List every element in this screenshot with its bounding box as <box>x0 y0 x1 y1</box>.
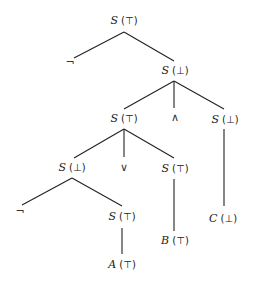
node-symbol: A <box>108 258 116 271</box>
node-symbol: S <box>110 14 118 27</box>
parse-tree-diagram: S (⊤)¬S (⊥)S (⊤)∧S (⊥)S (⊥)∨S (⊤)¬S (⊤)C… <box>0 0 253 285</box>
tree-edge <box>22 178 72 205</box>
node-truth-value: (⊥) <box>66 162 86 173</box>
tree-edge <box>74 32 124 58</box>
tree-edge <box>124 81 174 109</box>
node-truth-value: (⊤) <box>118 113 138 124</box>
node-symbol: B <box>161 234 169 247</box>
node-truth-value: (⊤) <box>116 259 136 270</box>
tree-node: S (⊤) <box>108 210 135 223</box>
operator-node: ∧ <box>171 111 179 124</box>
node-symbol: S <box>211 113 219 126</box>
node-truth-value: (⊥) <box>217 213 237 224</box>
tree-node: S (⊤) <box>110 112 137 125</box>
tree-edge <box>74 129 124 158</box>
operator-node: ¬ <box>15 205 24 218</box>
tree-node: B (⊤) <box>161 234 189 247</box>
node-truth-value: (⊤) <box>116 211 136 222</box>
tree-node: S (⊥) <box>211 113 238 126</box>
node-truth-value: (⊤) <box>118 15 138 26</box>
tree-edge <box>72 178 122 206</box>
node-truth-value: (⊤) <box>169 163 189 174</box>
node-symbol: S <box>161 64 169 77</box>
node-symbol: S <box>58 161 66 174</box>
node-truth-value: (⊤) <box>169 235 189 246</box>
node-symbol: S <box>161 162 169 175</box>
tree-edges <box>0 0 253 285</box>
tree-node: S (⊥) <box>161 64 188 77</box>
node-symbol: S <box>110 112 118 125</box>
tree-node: S (⊤) <box>110 14 137 27</box>
node-truth-value: (⊥) <box>169 65 189 76</box>
tree-node: A (⊤) <box>108 258 136 271</box>
operator-node: ¬ <box>65 56 74 69</box>
operator-node: ∨ <box>120 161 128 174</box>
node-truth-value: (⊥) <box>219 114 239 125</box>
tree-node: S (⊥) <box>58 161 85 174</box>
tree-edge <box>174 81 224 109</box>
tree-edge <box>124 32 174 61</box>
tree-node: S (⊤) <box>161 162 188 175</box>
node-symbol: S <box>108 210 116 223</box>
tree-edge <box>124 129 174 158</box>
tree-node: C (⊥) <box>209 212 237 225</box>
